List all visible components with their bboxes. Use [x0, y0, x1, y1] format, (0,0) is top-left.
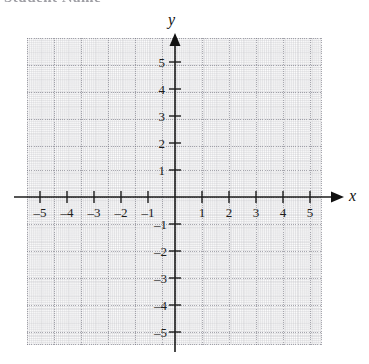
x-tick-label: 2 [226, 206, 233, 219]
y-tick-label: 1 [159, 164, 166, 177]
y-tick-label: 4 [159, 83, 166, 96]
y-axis-arrowhead [170, 33, 181, 46]
x-axis-label: x [349, 188, 356, 204]
y-axis-label: y [168, 12, 175, 28]
coordinate-plane-figure: –5 –4 –3 –2 –1 1 2 3 4 5 5 4 3 2 1 –1 –2… [0, 0, 369, 364]
x-axis-arrowhead [331, 192, 344, 203]
x-tick-label: –2 [115, 206, 128, 219]
x-tick-label: –1 [142, 206, 155, 219]
x-tick-label: 1 [199, 206, 206, 219]
y-tick-label: 3 [159, 110, 166, 123]
y-tick-label: 2 [159, 137, 166, 150]
x-tick-label: 5 [307, 206, 314, 219]
y-tick-label: 5 [159, 56, 166, 69]
x-tick-label: –5 [34, 206, 47, 219]
y-tick-label: –5 [154, 326, 167, 339]
axes [0, 0, 369, 364]
y-tick-label: –1 [154, 218, 167, 231]
x-tick-label: –4 [61, 206, 74, 219]
x-tick-label: 3 [253, 206, 260, 219]
x-tick-label: 4 [280, 206, 287, 219]
y-tick-label: –4 [154, 299, 167, 312]
y-tick-label: –3 [154, 272, 167, 285]
x-tick-label: –3 [88, 206, 101, 219]
y-tick-label: –2 [154, 245, 167, 258]
